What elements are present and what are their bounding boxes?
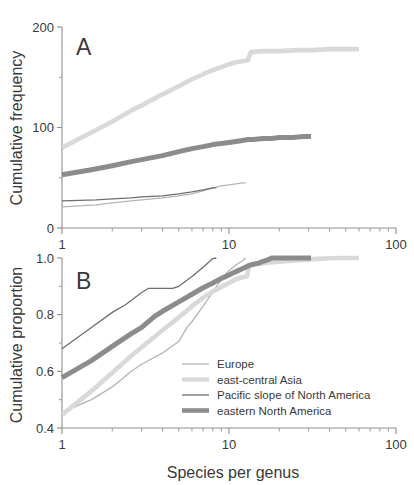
legend-label-3: eastern North America	[217, 405, 332, 417]
y-tick-label: 1.0	[36, 251, 54, 266]
x-tick-label: 1	[58, 237, 65, 252]
panel-b-y-axis-title: Cumulative proportion	[8, 267, 25, 424]
y-tick-label: 0.8	[36, 307, 54, 322]
y-tick-label: 100	[32, 120, 54, 135]
panel-a-y-axis-title: Cumulative frequency	[8, 51, 25, 206]
y-tick-label: 0.6	[36, 364, 54, 379]
legend-label-1: east-central Asia	[217, 374, 303, 386]
legend-label-2: Pacific slope of North America	[217, 389, 371, 401]
x-tick-label: 1	[58, 437, 65, 452]
y-tick-label: 0	[47, 221, 54, 236]
cumulative-distribution-figure: 0100200110100 A Cumulative frequency 0.4…	[0, 0, 414, 485]
x-tick-label: 100	[385, 437, 407, 452]
x-tick-label: 10	[222, 237, 236, 252]
x-axis-title: Species per genus	[167, 464, 300, 481]
x-tick-label: 10	[222, 437, 236, 452]
figure-container: 0100200110100 A Cumulative frequency 0.4…	[0, 0, 414, 485]
x-tick-label: 100	[385, 237, 407, 252]
y-tick-label: 0.4	[36, 421, 54, 436]
y-tick-label: 200	[32, 20, 54, 35]
panel-b-label: B	[76, 268, 91, 294]
panel-a-label: A	[76, 34, 92, 60]
legend-label-0: Europe	[217, 358, 254, 370]
